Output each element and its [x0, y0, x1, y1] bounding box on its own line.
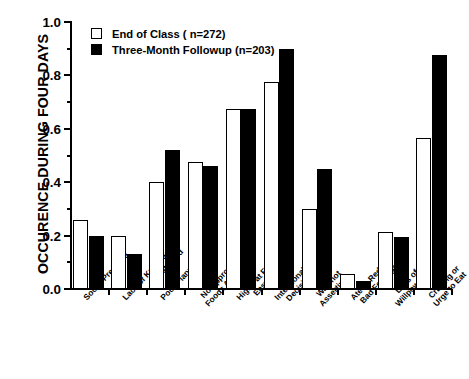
- y-axis-minor-tick: [67, 48, 71, 50]
- bar: [340, 274, 355, 289]
- legend-swatch-open-icon: [91, 28, 102, 39]
- y-axis-title: OCCURENCE DURING FOUR DAYS: [35, 9, 51, 299]
- bar: [279, 49, 294, 289]
- x-axis-tick: [184, 289, 186, 295]
- legend-item-three-month-followup: Three-Month Followup (n=203): [91, 42, 275, 57]
- bar: [203, 166, 218, 289]
- bar: [302, 209, 317, 289]
- y-axis-tick: [64, 21, 71, 23]
- y-axis-tick-label: 0.4: [42, 175, 61, 190]
- y-axis-tick-label: 0.6: [42, 121, 61, 136]
- y-axis-minor-tick: [67, 261, 71, 263]
- bar: [241, 109, 256, 289]
- bar: [317, 169, 332, 289]
- y-axis-tick-label: 0.8: [42, 68, 61, 83]
- y-axis-tick-label: 0.2: [42, 228, 61, 243]
- legend-label-three-month-followup: Three-Month Followup (n=203): [112, 44, 275, 56]
- bar: [432, 55, 447, 289]
- plot-area: 0.00.20.40.60.81.0Social PressureLack of…: [71, 22, 452, 289]
- bar: [73, 220, 88, 289]
- bar: [416, 138, 431, 289]
- y-axis-tick-label: 1.0: [42, 15, 61, 30]
- y-axis-tick-label: 0.0: [42, 282, 61, 297]
- bar: [149, 182, 164, 289]
- chart-legend: End of Class ( n=272) Three-Month Follow…: [91, 26, 275, 58]
- y-axis-tick: [64, 288, 71, 290]
- bar: [111, 236, 126, 289]
- legend-swatch-filled-icon: [91, 44, 102, 55]
- bar: [378, 232, 393, 289]
- bar: [264, 82, 279, 289]
- y-axis-minor-tick: [67, 155, 71, 157]
- x-axis-tick: [108, 289, 110, 295]
- y-axis-minor-tick: [67, 101, 71, 103]
- bar: [226, 109, 241, 289]
- y-axis-tick: [64, 235, 71, 237]
- bar: [165, 150, 180, 289]
- y-axis-tick: [64, 181, 71, 183]
- y-axis-tick: [64, 74, 71, 76]
- bar: [188, 162, 203, 289]
- legend-label-end-of-class: End of Class ( n=272): [112, 28, 225, 40]
- y-axis-minor-tick: [67, 208, 71, 210]
- y-axis-tick: [64, 128, 71, 130]
- legend-item-end-of-class: End of Class ( n=272): [91, 26, 275, 41]
